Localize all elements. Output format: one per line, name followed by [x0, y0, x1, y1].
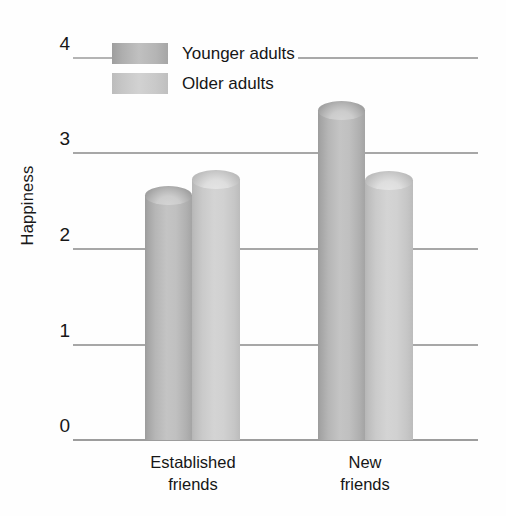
y-tick-label-1: 1 — [36, 321, 70, 340]
y-axis-title: Happiness — [18, 156, 37, 256]
bar-body — [318, 110, 365, 440]
y-tick-label-3: 3 — [36, 129, 70, 148]
bar-established-friends-younger-adults[interactable] — [145, 186, 192, 440]
bar-body — [192, 179, 240, 440]
x-axis-label-line2: friends — [123, 474, 263, 496]
bar-new-friends-older-adults[interactable] — [365, 171, 413, 440]
x-axis-label-line1: New — [300, 452, 430, 474]
older-adults-swatch — [112, 73, 168, 94]
gridline-3 — [73, 152, 478, 154]
bar-new-friends-younger-adults[interactable] — [318, 101, 365, 440]
bar-body — [145, 195, 192, 440]
bar-body — [365, 180, 413, 440]
younger-adults-swatch — [112, 43, 168, 64]
legend-label-younger-adults: Younger adults — [182, 45, 295, 62]
bar-top-ellipse — [192, 170, 240, 189]
x-axis-label-established-friends: Established friends — [123, 452, 263, 496]
bar-established-friends-older-adults[interactable] — [192, 170, 240, 440]
legend-label-older-adults: Older adults — [182, 75, 274, 92]
bar-top-ellipse — [365, 171, 413, 190]
x-axis-label-new-friends: New friends — [300, 452, 430, 496]
gridline-4-left — [73, 57, 116, 59]
legend: Younger adults Older adults — [112, 38, 295, 98]
gridline-0-baseline — [73, 439, 478, 441]
happiness-bar-chart: Happiness 4 3 2 1 0 Younger ad — [0, 0, 506, 516]
y-tick-label-0: 0 — [36, 416, 70, 435]
gridline-4-right — [298, 57, 478, 59]
y-tick-label-4: 4 — [36, 34, 70, 53]
legend-entry-older-adults[interactable]: Older adults — [112, 68, 295, 98]
legend-entry-younger-adults[interactable]: Younger adults — [112, 38, 295, 68]
y-tick-label-2: 2 — [36, 225, 70, 244]
bar-top-ellipse — [145, 186, 192, 205]
bar-top-ellipse — [318, 101, 365, 120]
x-axis-label-line2: friends — [300, 474, 430, 496]
gridline-2 — [73, 248, 478, 250]
gridline-1 — [73, 344, 478, 346]
x-axis-label-line1: Established — [123, 452, 263, 474]
